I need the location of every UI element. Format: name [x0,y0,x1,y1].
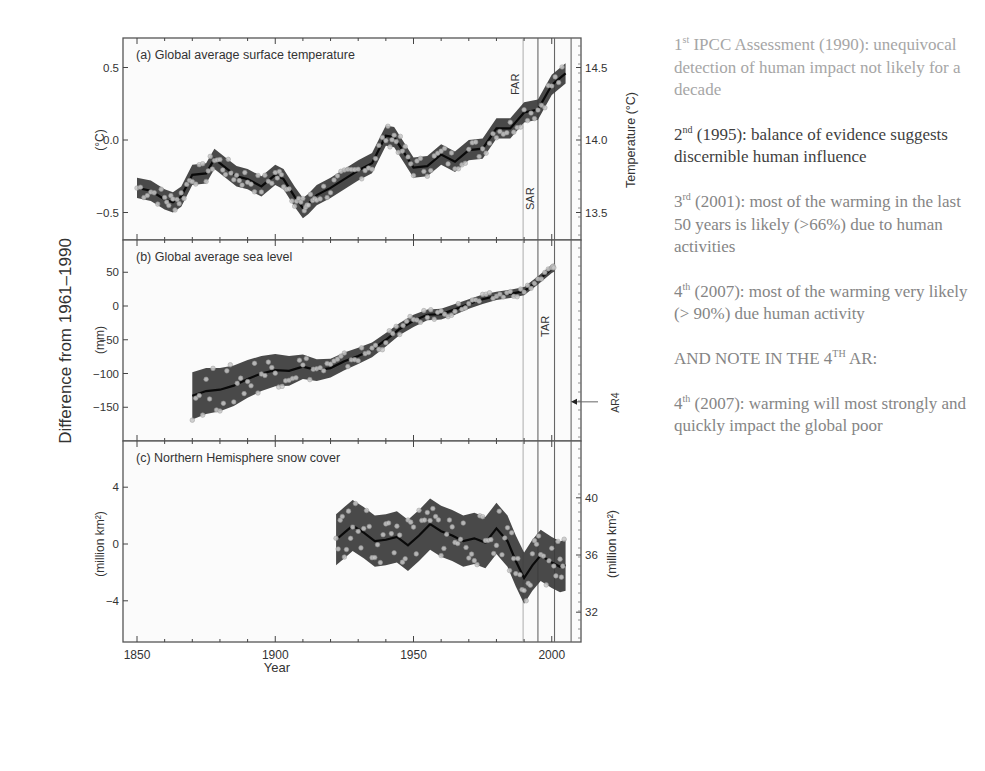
panel-title: (a) Global average surface temperature [136,48,355,62]
note-3: 3rd (2001): most of the warming in the l… [674,191,974,259]
panel-a: −0.50.00.513.514.014.5(°C)Temperature (°… [93,38,638,240]
right-y-tick-label: 14.0 [585,134,607,146]
note-4th-ar-heading: AND NOTE IN THE 4TH AR: [674,348,974,371]
right-y-tick-label: 40 [585,492,598,504]
y-tick-label: −100 [93,368,119,380]
ar4-label: AR4 [609,392,621,413]
right-y-tick-label: 32 [585,606,598,618]
tar-label: TAR [539,316,551,337]
note-1: 1st IPCC Assessment (1990): unequivocal … [674,34,974,102]
x-tick-label: 1900 [262,648,289,662]
y-tick-label: 4 [113,481,120,493]
right-y-tick-label: 14.5 [585,62,607,74]
ipcc-observed-changes-chart: −0.50.00.513.514.014.5(°C)Temperature (°… [0,0,660,771]
y-tick-label: 0 [113,538,119,550]
panel-title: (c) Northern Hemisphere snow cover [136,451,340,465]
note-5: 4th (2007): warming will most strongly a… [674,393,974,438]
y-tick-label: 0 [113,300,119,312]
panel-title: (b) Global average sea level [136,250,292,264]
right-y-tick-label: 13.5 [585,207,607,219]
shared-y-axis-label: Difference from 1961–1990 [56,238,75,444]
note-2: 2nd (1995): balance of evidence suggests… [674,124,974,169]
ipcc-assessment-notes: 1st IPCC Assessment (1990): unequivocal … [674,34,974,460]
y-axis-unit-label: (°C) [93,129,107,150]
y-axis-unit-label: (million km²) [93,511,107,576]
x-tick-label: 1950 [400,648,427,662]
y-tick-label: 0.5 [103,62,119,74]
x-tick-labels: 1850190019502000 [124,648,566,662]
y-tick-label: −4 [106,595,120,607]
right-y-axis-label: (million km²) [605,510,619,578]
y-tick-label: −150 [93,401,119,413]
y-tick-label: −0.5 [96,207,119,219]
x-tick-label: 1850 [124,648,151,662]
panel-b: −150−100−50050(mm)(b) Global average sea… [93,240,621,441]
x-axis-label: Year [264,660,291,675]
x-tick-label: 2000 [538,648,565,662]
note-4: 4th (2007): most of the warming very lik… [674,281,974,326]
panel-c: −404323640(million km²)(million km²)(c) … [93,441,619,642]
sar-label: SAR [524,187,536,210]
y-tick-label: 50 [106,266,119,278]
y-axis-unit-label: (mm) [93,326,107,354]
far-label: FAR [509,74,521,95]
right-y-axis-label: Temperature (°C) [624,92,638,188]
right-y-tick-label: 36 [585,549,598,561]
